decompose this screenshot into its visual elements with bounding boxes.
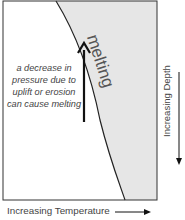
temperature-arrow-head: [144, 209, 151, 215]
depth-axis-label: Increasing Depth: [161, 65, 172, 137]
diagram-canvas: [0, 0, 185, 220]
depth-arrow-head: [176, 158, 182, 165]
decompression-caption: a decrease in pressure due to uplift or …: [4, 62, 84, 110]
temperature-axis-label: Increasing Temperature: [7, 205, 110, 216]
